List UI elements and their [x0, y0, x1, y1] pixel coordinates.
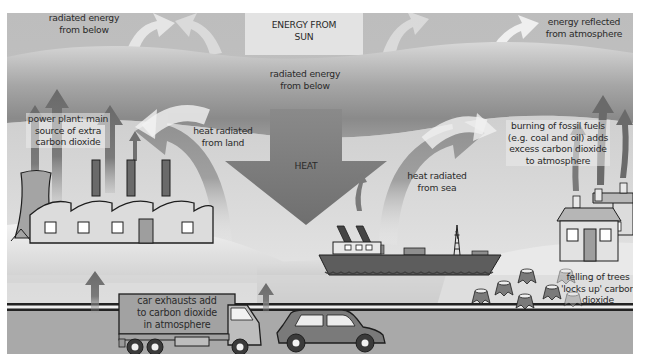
greenhouse-diagram: ENERGY FROM SUN radiated energy from bel… [7, 13, 633, 354]
radiated-energy-top-left-label: radiated energy from below [29, 13, 139, 35]
tree-stump-icon [472, 289, 490, 304]
heat-radiated-sea-label: heat radiated from sea [397, 170, 477, 193]
tree-stump-icon [543, 285, 561, 300]
felling-trees-label: felling of trees 'locks up' carbon dioxi… [560, 271, 633, 306]
radiated-energy-center-label: radiated energy from below [245, 68, 365, 91]
tree-stump-icon [516, 294, 534, 309]
road-edge [7, 303, 633, 306]
heat-radiated-land-label: heat radiated from land [183, 125, 263, 148]
tree-stump-icon [518, 269, 536, 284]
power-plant-label: power plant: main source of extra carbon… [26, 113, 110, 148]
diagram-canvas [7, 13, 633, 354]
heat-label: HEAT [281, 160, 331, 172]
energy-reflected-label: energy reflected from atmosphere [534, 16, 633, 39]
tree-stump-icon [495, 281, 513, 296]
car-exhausts-label: car exhausts add to carbon dioxide in at… [120, 295, 234, 331]
energy-from-sun-label: ENERGY FROM SUN [245, 19, 363, 42]
fossil-fuels-label: burning of fossil fuels (e.g. coal and o… [506, 120, 610, 166]
road-stripe [7, 306, 633, 309]
